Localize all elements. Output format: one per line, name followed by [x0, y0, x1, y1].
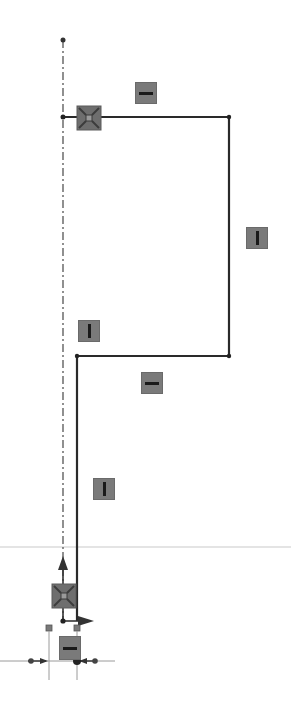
horizontal-relation-icon[interactable] — [141, 372, 163, 394]
origin-y-arrow-icon — [58, 556, 68, 570]
horizontal-relation-icon[interactable] — [59, 636, 81, 660]
vertical-glyph — [103, 482, 106, 496]
dimension-arrow-right-handle[interactable] — [92, 658, 98, 664]
vertical-relation-icon[interactable] — [78, 320, 100, 342]
horizontal-glyph — [145, 382, 159, 385]
sketch-point[interactable] — [75, 354, 79, 358]
sketch-point[interactable] — [227, 115, 231, 119]
sketch-point[interactable] — [227, 354, 231, 358]
origin-x-arrow-icon — [78, 616, 94, 626]
dimension-arrow-left-handle[interactable] — [28, 658, 34, 664]
sketch-point[interactable] — [61, 115, 66, 120]
dimension-arrowhead-icon — [40, 658, 48, 664]
coincident-relation-icon[interactable] — [77, 106, 101, 130]
reference-point-marker[interactable] — [46, 625, 52, 631]
horizontal-glyph — [63, 647, 77, 650]
horizontal-relation-icon[interactable] — [135, 82, 157, 104]
coincident-relation-icon[interactable] — [52, 584, 76, 608]
vertical-relation-icon[interactable] — [246, 227, 268, 249]
sketch-graphics — [0, 0, 291, 709]
origin-point[interactable] — [60, 618, 65, 623]
reference-point-marker[interactable] — [74, 625, 80, 631]
sketch-canvas[interactable]: cad-sketch — [0, 0, 291, 709]
vertical-glyph — [88, 324, 91, 338]
horizontal-glyph — [139, 92, 153, 95]
centerline-endpoint[interactable] — [61, 38, 66, 43]
sketch-profile[interactable] — [63, 117, 229, 621]
vertical-relation-icon[interactable] — [93, 478, 115, 500]
vertical-glyph — [256, 231, 259, 245]
